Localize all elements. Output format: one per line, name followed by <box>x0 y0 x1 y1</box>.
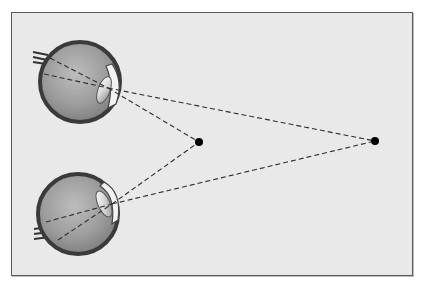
bottom-eye-to-near-point <box>112 142 199 204</box>
far-point-dot <box>371 137 379 145</box>
bottom-eye-to-far-point <box>112 141 375 204</box>
top-eye <box>33 42 120 122</box>
near-point-dot <box>195 138 203 146</box>
top-eye-to-near-point <box>108 88 199 142</box>
convergence-diagram <box>0 0 421 287</box>
top-eye-to-far-point <box>108 88 375 141</box>
bottom-eye <box>34 174 119 254</box>
